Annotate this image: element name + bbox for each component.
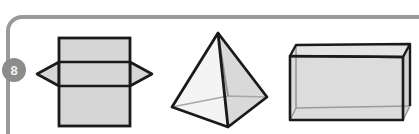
figure-panel: 8 <box>0 0 419 134</box>
badge-number: 8 <box>10 63 17 78</box>
figure-square-pyramid <box>172 33 267 127</box>
prism-net-left-flap <box>37 62 59 86</box>
figure-prism-net <box>37 38 152 126</box>
geometry-figures-canvas: 8 <box>0 0 419 134</box>
exercise-number-badge: 8 <box>2 58 26 82</box>
cuboid-face-front <box>290 56 403 120</box>
prism-net-body <box>59 38 130 126</box>
figure-cuboid <box>290 44 410 120</box>
prism-net-right-flap <box>130 62 152 86</box>
